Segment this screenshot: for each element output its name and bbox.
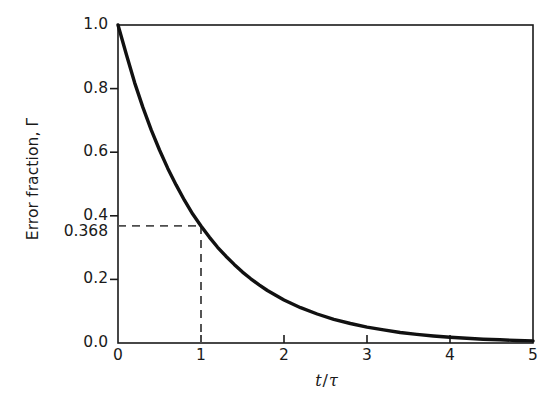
y-tick-label: 0.8 bbox=[83, 81, 108, 97]
y-tick-label: 1.0 bbox=[83, 17, 108, 33]
x-axis-title-slash: / bbox=[322, 371, 329, 390]
x-axis-title-numerator: t bbox=[315, 371, 321, 390]
x-tick-label: 1 bbox=[181, 347, 221, 363]
y-tick-label: 0.4 bbox=[83, 208, 108, 224]
decay-curve bbox=[118, 25, 533, 341]
y-tick-marks bbox=[110, 89, 118, 280]
y-tick-label: 0.6 bbox=[83, 144, 108, 160]
y-tick-label-highlight: 0.368 bbox=[64, 224, 108, 240]
annotation-guide-lines bbox=[118, 226, 201, 343]
y-axis-title: Error fraction, Γ bbox=[24, 59, 42, 299]
x-axis-title: t/τ bbox=[0, 371, 559, 390]
x-tick-label: 2 bbox=[264, 347, 304, 363]
y-tick-label: 0.2 bbox=[83, 271, 108, 287]
chart-figure: Error fraction, Γ 1.0 0.8 0.6 0.4 0.368 … bbox=[0, 0, 559, 410]
x-tick-marks bbox=[201, 335, 450, 343]
x-tick-label: 0 bbox=[98, 347, 138, 363]
x-tick-label: 3 bbox=[347, 347, 387, 363]
x-tick-label: 5 bbox=[513, 347, 553, 363]
x-axis-title-denominator: τ bbox=[329, 371, 338, 390]
axes-frame bbox=[118, 25, 533, 343]
x-tick-label: 4 bbox=[430, 347, 470, 363]
